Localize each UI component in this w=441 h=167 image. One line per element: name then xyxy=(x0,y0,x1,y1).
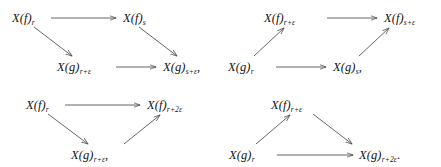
diagram-4-arrows xyxy=(256,114,353,155)
node-d1-n2: X(f)s xyxy=(123,12,146,25)
node-base: X(g) xyxy=(57,60,80,74)
node-base: X(g) xyxy=(359,148,382,162)
node-base: X(f) xyxy=(264,11,284,25)
diagram-2-arrows xyxy=(254,18,389,67)
node-d3-n3: X(g)r+ε, xyxy=(71,149,108,162)
node-base: X(g) xyxy=(71,148,94,162)
node-d3-n1: X(f)r xyxy=(26,99,49,112)
arrow-layer xyxy=(0,0,441,167)
node-subscript: r xyxy=(46,105,49,114)
node-base: X(f) xyxy=(123,11,143,25)
node-base: X(f) xyxy=(384,11,404,25)
node-subscript: r+ε xyxy=(291,105,302,114)
arrow-d1-n2-to-d1-n4 xyxy=(139,27,177,56)
node-d2-n3: X(g)r xyxy=(228,61,254,74)
arrow-d2-n3-to-d2-n1 xyxy=(254,28,284,56)
node-base: X(g) xyxy=(229,148,252,162)
node-base: X(f) xyxy=(26,98,46,112)
node-subscript: r+ε xyxy=(284,18,295,27)
diagram-3-arrows xyxy=(48,105,160,144)
arrow-d3-n1-to-d3-n3 xyxy=(48,114,88,144)
node-d4-n2: X(g)r xyxy=(229,149,255,162)
node-base: X(f) xyxy=(12,11,32,25)
node-d2-n2: X(f)s+ε xyxy=(384,12,415,25)
node-base: X(g) xyxy=(163,60,186,74)
commutative-diagram-figure: X(f)r X(f)s X(g)r+ε X(g)s+ε, X(f)r+ε X(f… xyxy=(0,0,441,167)
arrow-d1-n1-to-d1-n3 xyxy=(34,27,72,56)
node-d2-n4: X(g)s, xyxy=(333,61,362,74)
arrow-d4-n2-to-d4-n1 xyxy=(256,115,290,144)
arrow-d2-n4-to-d2-n2 xyxy=(359,28,389,56)
node-subscript: r xyxy=(251,67,254,76)
node-d4-n3: X(g)r+2ε. xyxy=(359,149,400,162)
node-subscript: r+2ε xyxy=(167,105,182,114)
node-punctuation: , xyxy=(197,60,200,74)
node-subscript: s xyxy=(356,67,359,76)
node-punctuation: , xyxy=(359,60,362,74)
node-d4-n1: X(f)r+ε xyxy=(271,99,302,112)
node-base: X(f) xyxy=(271,98,291,112)
node-subscript: s+ε xyxy=(186,67,197,76)
node-base: X(f) xyxy=(147,98,167,112)
diagram-1-arrows xyxy=(34,18,177,67)
node-punctuation: . xyxy=(397,148,400,162)
node-subscript: s xyxy=(143,18,146,27)
node-d1-n3: X(g)r+ε xyxy=(57,61,91,74)
node-subscript: r xyxy=(252,155,255,164)
node-subscript: r+2ε xyxy=(382,155,397,164)
node-d3-n2: X(f)r+2ε xyxy=(147,99,182,112)
arrow-d4-n1-to-d4-n3 xyxy=(313,114,352,144)
node-subscript: r+ε xyxy=(94,155,105,164)
node-d1-n1: X(f)r xyxy=(12,12,35,25)
node-d1-n4: X(g)s+ε, xyxy=(163,61,200,74)
node-subscript: s+ε xyxy=(404,18,415,27)
node-subscript: r xyxy=(32,18,35,27)
arrow-d3-n3-to-d3-n2 xyxy=(124,115,160,144)
node-base: X(g) xyxy=(333,60,356,74)
node-base: X(g) xyxy=(228,60,251,74)
node-subscript: r+ε xyxy=(80,67,91,76)
node-d2-n1: X(f)r+ε xyxy=(264,12,295,25)
node-punctuation: , xyxy=(105,148,108,162)
